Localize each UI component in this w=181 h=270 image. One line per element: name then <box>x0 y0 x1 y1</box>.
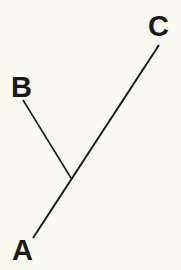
branch-a-to-c <box>33 45 159 238</box>
branch-junction-to-b <box>23 100 71 178</box>
node-label-c: C <box>148 12 169 41</box>
node-label-b: B <box>11 73 32 102</box>
node-label-a: A <box>12 236 33 265</box>
